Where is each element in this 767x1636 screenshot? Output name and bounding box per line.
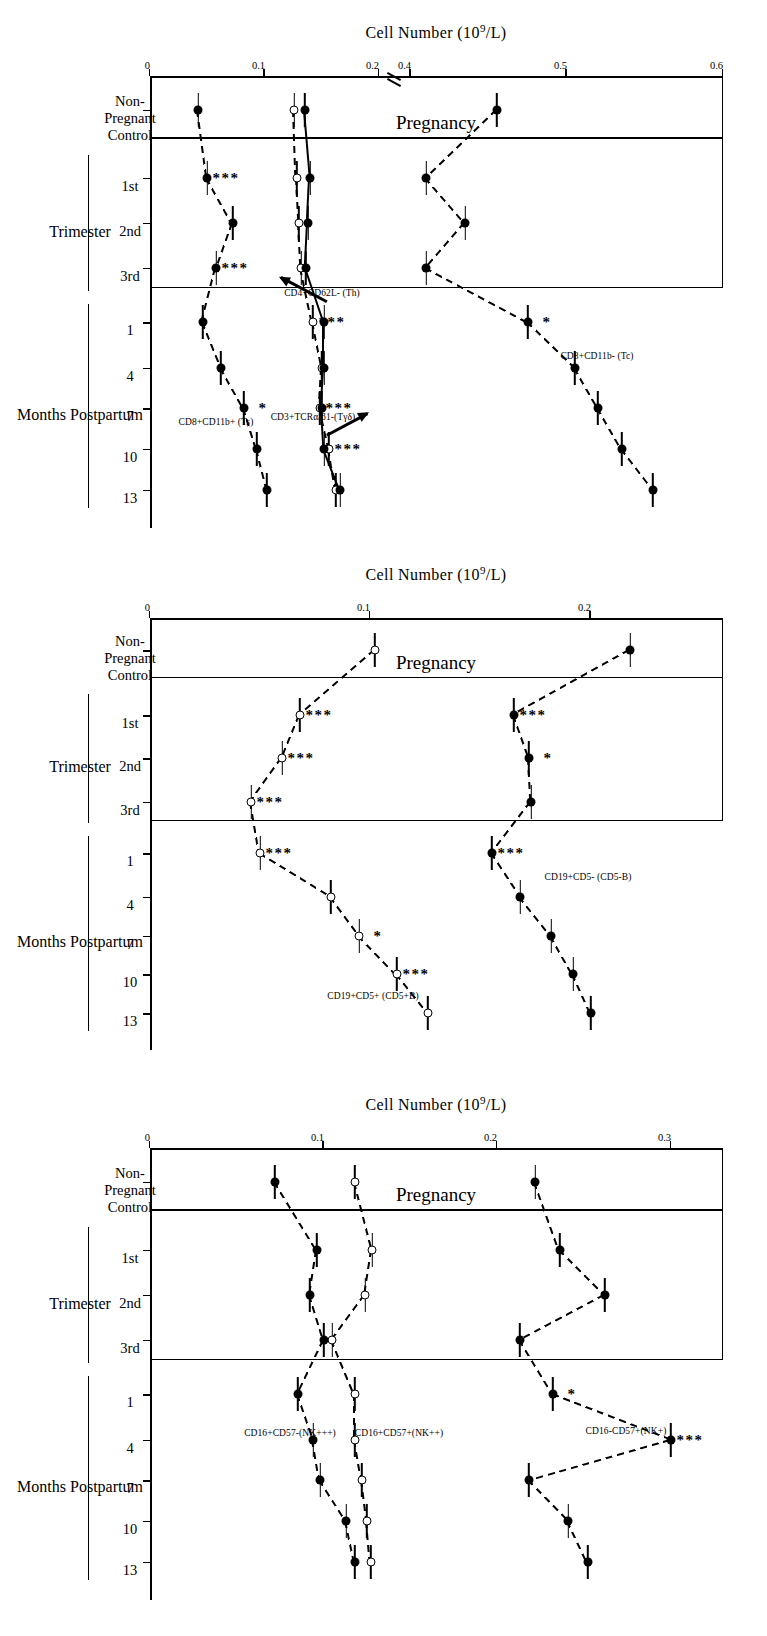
data-point-filled [336, 485, 345, 494]
series-label: CD19+CD5+ (CD5+B) [328, 991, 419, 1001]
series-label: CD8+CD11b- (Tc) [560, 351, 633, 361]
x-axis-label-trimester: 3rd [120, 268, 139, 285]
series-line-segment [219, 367, 244, 409]
data-point-open [366, 1557, 375, 1566]
data-point-filled [492, 105, 501, 114]
data-point-open [350, 1390, 359, 1399]
series-line-segment [549, 935, 573, 975]
data-point-filled [271, 1177, 280, 1186]
y-axis-tick-label: 0.3 [658, 1132, 671, 1143]
x-axis-label-nonpregnant: Control [108, 1199, 152, 1216]
data-point-filled [461, 218, 470, 227]
plot-area: 00.10.20.40.50.6Cell Number (109/L)Non-P… [150, 76, 723, 528]
x-axis-label-nonpregnant: Pregnant [104, 110, 156, 127]
series-label: CD16+CD57-(NK+++) [245, 1428, 337, 1438]
y-axis-tick-label: 0.2 [366, 60, 379, 71]
x-axis-label-nonpregnant: Non- [115, 633, 145, 650]
data-point-filled [626, 646, 635, 655]
data-point-filled [548, 1390, 557, 1399]
x-axis-label-postpartum: 10 [123, 974, 138, 991]
data-point-filled [531, 1177, 540, 1186]
y-axis-title: Cell Number (109/L) [366, 22, 507, 42]
x-axis-tick [143, 268, 150, 269]
series-line-segment [201, 322, 221, 368]
pregnancy-box-label: Pregnancy [396, 112, 476, 134]
panel-t-cell-subsets: 00.10.20.40.50.6Cell Number (109/L)Non-P… [0, 18, 767, 538]
data-point-filled [319, 1336, 328, 1345]
data-point-filled [212, 264, 221, 273]
x-axis-label-trimester: 2nd [119, 223, 141, 240]
x-axis-tick [143, 449, 150, 450]
x-axis-tick [143, 223, 150, 224]
trimester-group-label: Trimester [49, 1295, 111, 1313]
significance-marker: *** [266, 849, 293, 857]
data-point-filled [569, 970, 578, 979]
data-point-open [370, 646, 379, 655]
data-point-filled [228, 218, 237, 227]
data-point-open [328, 1336, 337, 1345]
x-axis-tick [143, 1440, 150, 1441]
series-label: CD3+TCRα/β1-(Tγδ) [271, 412, 356, 422]
trimester-group-label: Trimester [49, 223, 111, 241]
x-axis-tick [143, 368, 150, 369]
data-point-filled [524, 1476, 533, 1485]
x-axis-tick [143, 758, 150, 759]
data-point-open [256, 849, 265, 858]
series-line-segment [567, 1520, 588, 1561]
data-point-filled [312, 1245, 321, 1254]
x-axis-label-postpartum: 4 [126, 368, 133, 385]
data-point-filled [301, 264, 310, 273]
x-axis-label-trimester: 1st [122, 178, 139, 195]
panel-b-cell-subsets: 00.10.2Cell Number (109/L)Non-PregnantCo… [0, 560, 767, 1060]
data-point-filled [203, 173, 212, 182]
data-point-filled [306, 173, 315, 182]
x-axis-label-trimester: 1st [122, 1250, 139, 1267]
y-axis-tick-label: 0.2 [484, 1132, 497, 1143]
data-point-filled [198, 318, 207, 327]
data-point-open [392, 970, 401, 979]
data-point-filled [422, 173, 431, 182]
data-point-filled [300, 105, 309, 114]
y-axis-tick-label: 0.4 [398, 60, 411, 71]
y-axis-tick-label: 0 [145, 60, 150, 71]
x-axis-tick [143, 322, 150, 323]
data-point-filled [617, 444, 626, 453]
x-axis-label-trimester: 2nd [119, 1295, 141, 1312]
data-point-open [292, 173, 301, 182]
significance-marker: *** [305, 711, 332, 719]
data-point-filled [527, 797, 536, 806]
data-point-filled [594, 404, 603, 413]
data-point-open [295, 711, 304, 720]
significance-marker: *** [288, 754, 315, 762]
pregnancy-box-label: Pregnancy [396, 652, 476, 674]
trimester-group-label: Trimester [49, 758, 111, 776]
x-axis-tick [143, 897, 150, 898]
data-point-open [355, 931, 364, 940]
data-point-filled [547, 931, 556, 940]
x-axis-tick [143, 1480, 150, 1481]
significance-marker: *** [497, 849, 524, 857]
series-line-segment [318, 1480, 346, 1522]
data-point-open [363, 1516, 372, 1525]
y-axis-tick-label: 0.6 [710, 60, 723, 71]
y-axis-tick-label: 0.1 [357, 602, 370, 613]
x-axis-label-postpartum: 13 [123, 1013, 138, 1030]
x-axis-tick [143, 802, 150, 803]
series-line-segment [527, 1480, 568, 1522]
x-axis-tick [143, 178, 150, 179]
x-axis-label-nonpregnant: Control [108, 127, 152, 144]
pregnancy-bracket-box: Pregnancy [150, 618, 723, 821]
data-point-filled [262, 485, 271, 494]
plot-area: 00.10.2Cell Number (109/L)Non-PregnantCo… [150, 618, 723, 1050]
significance-marker: * [258, 404, 267, 412]
significance-marker: * [542, 318, 551, 326]
significance-marker: * [544, 754, 553, 762]
data-point-filled [293, 1390, 302, 1399]
data-point-filled [350, 1557, 359, 1566]
x-axis-label-trimester: 1st [122, 715, 139, 732]
y-axis-title: Cell Number (109/L) [366, 1094, 507, 1114]
pregnancy-box-divider [150, 677, 722, 679]
significance-marker: *** [334, 445, 361, 453]
x-axis-tick [143, 715, 150, 716]
series-line-segment [573, 367, 598, 409]
